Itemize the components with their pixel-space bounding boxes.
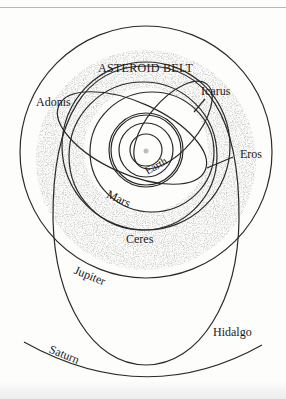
hidalgo-label: Hidalgo <box>213 326 252 338</box>
eros-label: Eros <box>240 148 262 160</box>
page-bottom-shade <box>0 380 286 399</box>
asteroid-belt-label: ASTEROID BELT <box>98 62 193 74</box>
orbit-diagram <box>0 0 286 399</box>
adonis-label: Adonis <box>36 96 71 108</box>
ceres-label: Ceres <box>126 233 153 245</box>
sun-icon <box>144 149 149 154</box>
icarus-label: Icarus <box>201 85 230 97</box>
asteroid-belt-region <box>0 0 286 399</box>
